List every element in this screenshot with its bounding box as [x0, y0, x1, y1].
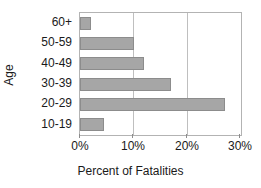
- bars-layer: [80, 13, 241, 135]
- bar-20-29: [80, 98, 225, 111]
- x-tick-label: 10%: [121, 140, 145, 153]
- y-tick-label: 30-39: [18, 73, 76, 93]
- y-tick-label: 60+: [18, 12, 76, 32]
- x-axis-title: Percent of Fatalities: [0, 164, 261, 178]
- x-tick: [79, 134, 80, 138]
- bar-60-plus: [80, 17, 91, 30]
- x-tick-label: 30%: [228, 140, 252, 153]
- bar-30-39: [80, 78, 171, 91]
- x-tick: [186, 134, 187, 138]
- y-tick-label: 40-49: [18, 53, 76, 73]
- x-tick-label: 0%: [71, 140, 88, 153]
- y-axis-tick-labels: 60+ 50-59 40-49 30-39 20-29 10-19: [18, 12, 76, 134]
- bar-row: [80, 74, 241, 94]
- y-tick-label: 50-59: [18, 32, 76, 52]
- bar-row: [80, 94, 241, 114]
- x-tick: [132, 134, 133, 138]
- x-tick-label: 20%: [175, 140, 199, 153]
- bar-40-49: [80, 57, 144, 70]
- y-tick-label: 20-29: [18, 93, 76, 113]
- x-axis-tick-labels: 0% 10% 20% 30%: [0, 140, 261, 156]
- x-tick: [239, 134, 240, 138]
- x-axis-ticks: [79, 134, 241, 139]
- bar-10-19: [80, 118, 104, 131]
- fatalities-by-age-bar-chart: Age 60+ 50-59 40-49 30-39 20-29 10-19: [0, 0, 261, 188]
- bar-row: [80, 54, 241, 74]
- y-tick-label: 10-19: [18, 114, 76, 134]
- bar-row: [80, 33, 241, 53]
- bar-row: [80, 13, 241, 33]
- bar-50-59: [80, 37, 134, 50]
- bar-row: [80, 115, 241, 135]
- plot-area: [79, 12, 242, 136]
